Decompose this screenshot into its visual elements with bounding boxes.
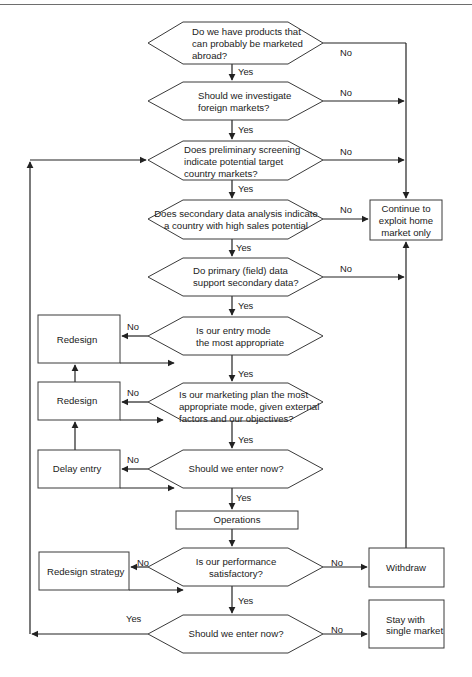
edge-label-yes: Yes	[238, 300, 254, 311]
edge-label-yes: Yes	[238, 595, 254, 606]
decision-d7: Is our marketing plan the most appropria…	[148, 383, 323, 424]
process-redesign-strategy: Redesign strategy	[39, 552, 129, 590]
svg-text:Should we enter now?: Should we enter now?	[189, 463, 284, 474]
svg-text:Does secondary data analysis i: Does secondary data analysis indicate	[154, 208, 318, 219]
edge-label-no: No	[340, 87, 352, 98]
edge-label-no: No	[331, 557, 343, 568]
svg-text:Does preliminary screening: Does preliminary screening	[184, 144, 300, 155]
edge-label-no: No	[331, 624, 343, 635]
decision-d6: Is our entry mode the most appropriate	[148, 317, 323, 355]
svg-text:satisfactory?: satisfactory?	[209, 568, 263, 579]
process-redesign-2: Redesign	[38, 382, 120, 420]
svg-text:appropriate mode, given extern: appropriate mode, given external	[179, 401, 319, 412]
svg-text:indicate potential target: indicate potential target	[184, 156, 284, 167]
process-operations: Operations	[176, 511, 298, 529]
svg-text:a country with high sales pote: a country with high sales potential	[164, 220, 308, 231]
decision-d10: Should we enter now?	[148, 615, 323, 653]
edge-label-yes: Yes	[238, 124, 254, 135]
edge-label-no: No	[340, 204, 352, 215]
edge-label-yes: Yes	[238, 368, 254, 379]
svg-text:support secondary data?: support secondary data?	[193, 277, 299, 288]
decision-d8: Should we enter now?	[148, 450, 323, 488]
svg-text:Is our performance: Is our performance	[196, 556, 277, 567]
edge-label-no: No	[127, 387, 139, 398]
edge-label-yes: Yes	[236, 492, 252, 503]
svg-text:Continue to: Continue to	[381, 203, 430, 214]
svg-text:country markets?: country markets?	[184, 168, 258, 179]
edge-label-yes: Yes	[236, 242, 252, 253]
svg-text:exploit home: exploit home	[379, 215, 433, 226]
svg-text:Is our marketing plan the most: Is our marketing plan the most	[179, 389, 308, 400]
process-withdraw: Withdraw	[369, 548, 444, 587]
decision-d9: Is our performance satisfactory?	[148, 548, 323, 586]
svg-text:Should we enter now?: Should we enter now?	[189, 628, 284, 639]
svg-text:Should we investigate: Should we investigate	[198, 90, 291, 101]
svg-text:factors and our objectives?: factors and our objectives?	[179, 413, 294, 424]
svg-text:Delay entry: Delay entry	[53, 463, 102, 474]
svg-text:Redesign: Redesign	[57, 395, 98, 406]
decision-d4: Does secondary data analysis indicate a …	[148, 200, 323, 239]
edge-label-yes: Yes	[238, 434, 254, 445]
svg-text:Redesign: Redesign	[57, 334, 98, 345]
edge-label-no: No	[137, 557, 149, 568]
svg-text:Is our entry mode: Is our entry mode	[196, 325, 271, 336]
flowchart: Yes Yes Yes Yes Yes Yes Yes Yes Yes Yes …	[0, 0, 472, 677]
svg-text:Redesign strategy: Redesign strategy	[47, 566, 125, 577]
svg-text:Stay with: Stay with	[386, 614, 425, 625]
svg-text:market only: market only	[381, 227, 431, 238]
svg-text:foreign markets?: foreign markets?	[198, 102, 269, 113]
edge-label-yes: Yes	[126, 613, 142, 624]
process-continue: Continue to exploit home market only	[370, 200, 442, 240]
svg-text:Do we have products that: Do we have products that	[192, 26, 301, 37]
svg-text:the most appropriate: the most appropriate	[196, 337, 284, 348]
svg-text:Withdraw: Withdraw	[386, 562, 426, 573]
edge-label-yes: Yes	[238, 183, 254, 194]
edge-label-no: No	[340, 146, 352, 157]
svg-text:Do primary (field) data: Do primary (field) data	[193, 265, 289, 276]
process-delay-entry: Delay entry	[38, 450, 120, 488]
process-stay-single-market: Stay with single market	[369, 600, 444, 648]
svg-text:Operations: Operations	[214, 514, 261, 525]
decision-d1: Do we have products that can probably be…	[148, 22, 323, 64]
edge-label-no: No	[340, 47, 352, 58]
decision-d5: Do primary (field) data support secondar…	[148, 258, 323, 296]
process-redesign-1: Redesign	[38, 315, 120, 363]
edge-label-yes: Yes	[238, 66, 254, 77]
svg-text:abroad?: abroad?	[192, 50, 227, 61]
svg-text:can probably be marketed: can probably be marketed	[192, 38, 303, 49]
edge-label-no: No	[127, 454, 139, 465]
edge-label-no: No	[127, 321, 139, 332]
edge-label-no: No	[340, 263, 352, 274]
decision-d3: Does preliminary screening indicate pote…	[148, 141, 323, 180]
svg-text:single market: single market	[386, 625, 443, 636]
decision-d2: Should we investigate foreign markets?	[148, 82, 323, 120]
